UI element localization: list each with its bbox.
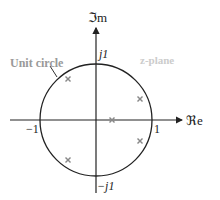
unit-circle-label: Unit circle <box>10 56 64 70</box>
imag-axis-label: ℑm <box>88 10 107 25</box>
pole-zero-plot: ℑm ℜe j1 −j1 −1 1 Unit circle z-plane <box>0 0 220 200</box>
z-plane-label: z-plane <box>140 54 174 66</box>
tick-j1: j1 <box>97 47 108 61</box>
tick-neg-j1: −j1 <box>97 179 114 193</box>
tick-one: 1 <box>154 122 160 136</box>
pole-marker <box>66 158 71 163</box>
pole-marker <box>138 97 143 102</box>
pole-marker <box>66 77 71 82</box>
z-plane-diagram: ℑm ℜe j1 −j1 −1 1 Unit circle z-plane <box>0 0 220 200</box>
tick-neg-one: −1 <box>26 122 39 136</box>
real-axis-label: ℜe <box>186 113 203 128</box>
pole-marker <box>138 139 143 144</box>
